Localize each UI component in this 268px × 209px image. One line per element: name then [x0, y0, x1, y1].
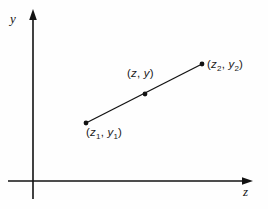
- figure-canvas: y z (z1, y1) (z, y) (z2, y2): [0, 0, 268, 209]
- point-mid-separator: ,: [137, 67, 144, 79]
- point-mid-close: ): [150, 67, 154, 79]
- point-marker-mid: [143, 92, 148, 97]
- point-mid-label: (z, y): [127, 67, 154, 79]
- point-2-close: ): [239, 58, 243, 70]
- y-axis-label: y: [10, 11, 16, 27]
- figure-svg: [0, 0, 268, 209]
- point-marker-2: [200, 62, 205, 67]
- point-marker-1: [84, 121, 89, 126]
- y-axis-arrowhead: [29, 9, 37, 20]
- point-2-label: (z2, y2): [207, 58, 243, 73]
- x-axis-label: z: [243, 184, 248, 200]
- point-1-label: (z1, y1): [86, 126, 122, 141]
- point-1-close: ): [118, 126, 122, 138]
